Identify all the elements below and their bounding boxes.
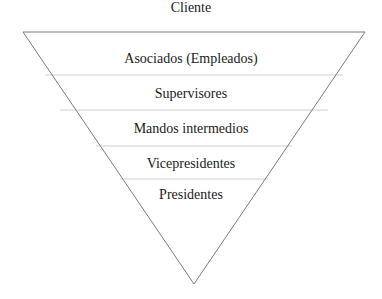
level-label-mandos-intermedios: Mandos intermedios [0, 121, 382, 137]
top-label-cliente: Cliente [0, 0, 382, 16]
level-label-asociados: Asociados (Empleados) [0, 51, 382, 67]
pyramid-shape [0, 0, 382, 299]
level-label-supervisores: Supervisores [0, 86, 382, 102]
level-label-presidentes: Presidentes [0, 187, 382, 203]
level-label-vicepresidentes: Vicepresidentes [0, 156, 382, 172]
